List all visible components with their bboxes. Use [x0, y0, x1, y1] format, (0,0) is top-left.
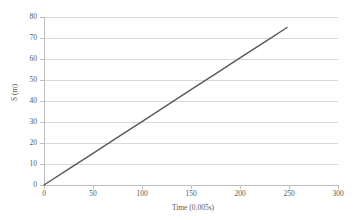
x-axis-title-container: Time (0.005s)	[0, 203, 364, 212]
line-chart: S (m) 01020304050607080 0501001502002503…	[0, 0, 364, 220]
series-layer	[0, 0, 364, 220]
series-line-displacement	[44, 28, 287, 186]
x-axis-title: Time (0.005s)	[172, 203, 214, 212]
